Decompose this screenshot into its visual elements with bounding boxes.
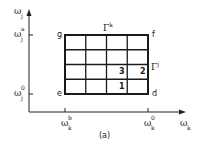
y-tick-label-a: ωaj [14, 30, 21, 39]
figure-caption: (a) [99, 132, 110, 140]
diagram-canvas [0, 0, 202, 147]
boundary-label-gamma-k: Γk [103, 22, 113, 33]
region-grid [65, 35, 148, 94]
corner-label-f: f [152, 31, 155, 39]
corner-label-g: g [57, 31, 62, 39]
cell-label-2: 2 [140, 68, 146, 76]
corner-label-e: e [57, 90, 62, 98]
corner-label-d: d [152, 90, 157, 98]
x-axis-arrow-icon [179, 110, 186, 115]
y-axis-label: ωj [14, 7, 21, 16]
cell-label-1: 1 [119, 83, 125, 91]
y-tick-label-0: ω0j [14, 89, 21, 98]
cell-label-3: 3 [119, 68, 125, 76]
x-tick-label-0: ω0k [144, 119, 151, 128]
y-axis-arrow-icon [27, 9, 32, 16]
x-axis-label: ωk [180, 119, 187, 128]
boundary-label-gamma-j: Γj [151, 61, 159, 72]
x-tick-label-b: ωbk [61, 119, 68, 128]
